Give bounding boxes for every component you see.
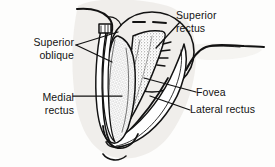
figure-canvas: Superior oblique Superior rectus Medial … [0, 0, 275, 167]
label-superior-rectus: Superior rectus [176, 9, 248, 34]
label-superior-oblique: Superior oblique [6, 36, 74, 61]
label-lateral-rectus: Lateral rectus [190, 103, 274, 116]
label-fovea: Fovea [196, 86, 256, 99]
label-medial-rectus: Medial rectus [6, 91, 74, 116]
